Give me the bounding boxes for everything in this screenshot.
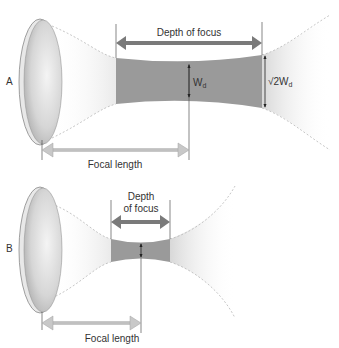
depth-of-focus-diagram: A Depth of focus W — [0, 0, 339, 348]
beam-diverging-b — [170, 186, 235, 318]
depth-of-focus-arrow-a — [116, 36, 262, 50]
focal-length-arrow-b — [42, 316, 141, 330]
panel-b: B Depth of focus — [6, 186, 235, 344]
depth-of-focus-label-b-line1: Depth — [128, 191, 155, 202]
panel-label-a: A — [6, 76, 13, 87]
lens-b — [19, 187, 62, 313]
focus-region-b — [111, 239, 170, 262]
focal-length-label-a: Focal length — [88, 159, 142, 170]
lens-a — [19, 19, 62, 145]
depth-of-focus-arrow-b — [111, 215, 170, 229]
depth-of-focus-label-a: Depth of focus — [157, 27, 221, 38]
depth-of-focus-label-b-line2: of focus — [123, 203, 158, 214]
focal-length-arrow-a — [42, 143, 189, 157]
panel-label-b: B — [6, 243, 13, 254]
panel-a: A Depth of focus W — [6, 15, 330, 170]
focal-length-label-b: Focal length — [85, 333, 139, 344]
